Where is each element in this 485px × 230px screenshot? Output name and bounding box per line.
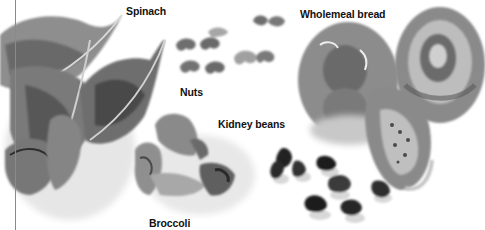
label-kidney-beans: Kidney beans [218,118,285,130]
left-edge-divider [15,0,16,230]
label-spinach: Spinach [126,5,166,17]
label-broccoli: Broccoli [149,217,190,229]
food-illustration: Spinach Nuts Wholemeal bread Kidney bean… [0,0,485,230]
food-artwork [0,0,485,230]
nuts-illustration [176,16,285,74]
label-wholemeal-bread: Wholemeal bread [300,8,385,20]
label-nuts: Nuts [180,86,203,98]
